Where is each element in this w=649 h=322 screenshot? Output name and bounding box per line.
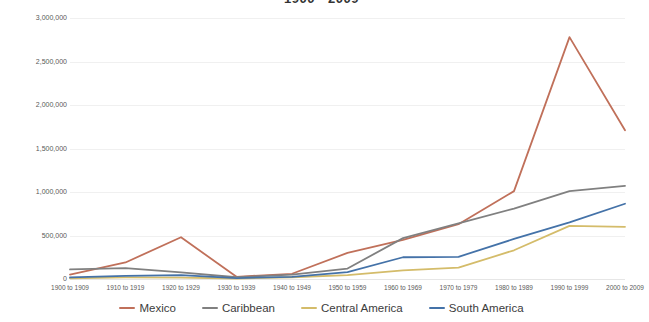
x-axis-tick-label: 1930 to 1939 — [211, 283, 261, 293]
x-axis-tick-label: 1960 to 1969 — [378, 283, 428, 293]
legend-item-label: Mexico — [139, 302, 175, 314]
series-line-mexico — [70, 37, 625, 277]
x-axis-tick-label: 1920 to 1929 — [156, 283, 206, 293]
x-axis: 1900 to 19091910 to 19191920 to 19291930… — [70, 283, 625, 297]
x-axis-tick-label: 1990 to 1999 — [544, 283, 594, 293]
y-axis-tick-label: 0 — [7, 275, 67, 283]
legend-swatch-icon — [202, 307, 218, 309]
chart-legend: MexicoCaribbeanCentral AmericaSouth Amer… — [0, 302, 643, 314]
legend-item-central-america[interactable]: Central America — [301, 302, 403, 314]
legend-item-caribbean[interactable]: Caribbean — [202, 302, 275, 314]
x-axis-tick-label: 2000 to 2009 — [600, 283, 649, 293]
legend-item-south-america[interactable]: South America — [429, 302, 524, 314]
x-axis-tick-label: 1910 to 1919 — [100, 283, 150, 293]
y-axis-tick-label: 1,000,000 — [7, 188, 67, 196]
x-axis-tick-label: 1940 to 1949 — [267, 283, 317, 293]
y-axis-tick-label: 1,500,000 — [7, 145, 67, 153]
y-axis-tick-label: 3,000,000 — [7, 14, 67, 22]
x-axis-tick-label: 1900 to 1909 — [45, 283, 95, 293]
legend-item-label: Central America — [321, 302, 403, 314]
x-axis-tick-label: 1950 to 1959 — [322, 283, 372, 293]
legend-item-mexico[interactable]: Mexico — [119, 302, 175, 314]
legend-item-label: Caribbean — [222, 302, 275, 314]
x-axis-tick-label: 1970 to 1979 — [433, 283, 483, 293]
plot-area — [70, 18, 625, 279]
legend-swatch-icon — [301, 307, 317, 309]
legend-swatch-icon — [119, 307, 135, 309]
chart-title: 1900 - 2009 — [0, 0, 643, 6]
y-axis-tick-label: 500,000 — [7, 232, 67, 240]
series-line-south-america — [70, 204, 625, 278]
legend-item-label: South America — [449, 302, 524, 314]
series-lines — [70, 18, 625, 279]
y-axis-tick-label: 2,500,000 — [7, 58, 67, 66]
legend-swatch-icon — [429, 307, 445, 309]
y-axis-tick-label: 2,000,000 — [7, 101, 67, 109]
gridline — [70, 279, 625, 280]
x-axis-tick-label: 1980 to 1989 — [489, 283, 539, 293]
